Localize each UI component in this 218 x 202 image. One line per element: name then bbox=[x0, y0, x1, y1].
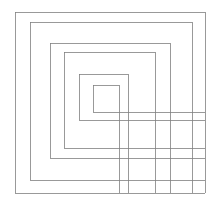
figure-background bbox=[0, 0, 218, 202]
nested-square-spiral-figure bbox=[0, 0, 218, 202]
figure-canvas bbox=[0, 0, 218, 202]
